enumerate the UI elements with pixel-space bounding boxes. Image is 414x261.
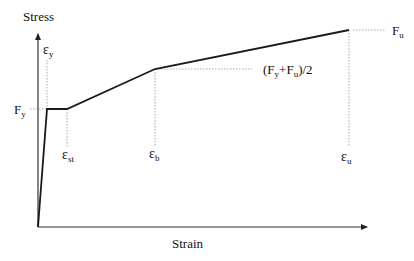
label-fy: Fy [14, 102, 26, 119]
label-fu: Fu [392, 23, 404, 40]
label-mid-stress: (Fy+Fu)/2 [263, 62, 313, 79]
label-eb: εb [149, 146, 160, 163]
guide-lines [30, 30, 386, 148]
stress-strain-curve [38, 30, 349, 227]
stress-strain-diagram: Stress Strain Fy Fu (Fy+Fu)/2 εy εst εb … [0, 0, 414, 261]
label-ey: εy [43, 42, 54, 59]
label-est: εst [62, 147, 74, 164]
label-eu: εu [341, 149, 352, 166]
x-axis-title: Strain [172, 236, 204, 251]
y-axis-title: Stress [23, 9, 54, 24]
